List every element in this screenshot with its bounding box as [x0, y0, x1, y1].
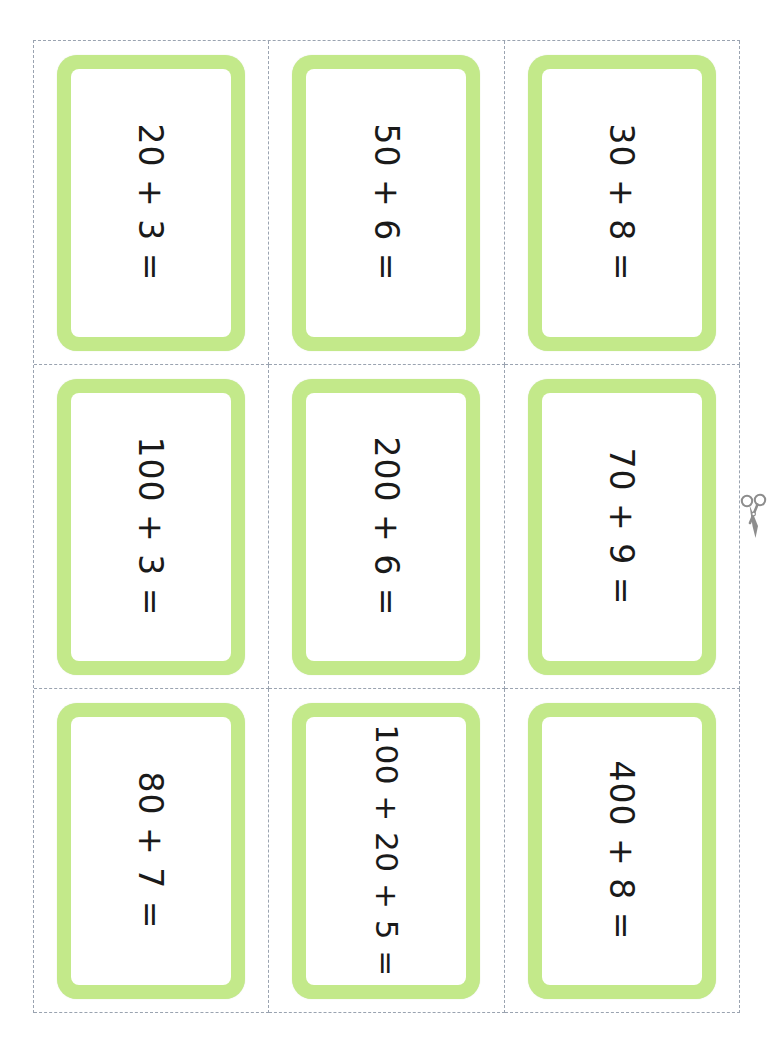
cut-line-grid: 20 + 3 = 50 + 6 = 30 + 8 = 100 + 3 =: [33, 40, 740, 1013]
flashcard-expression: 70 + 9 =: [605, 448, 638, 606]
cut-cell: 50 + 6 =: [269, 41, 504, 365]
flashcard[interactable]: 100 + 3 =: [57, 379, 245, 675]
cut-cell: 20 + 3 =: [34, 41, 269, 365]
scissors-icon: [738, 492, 768, 546]
cut-cell: 70 + 9 =: [505, 365, 740, 689]
flashcard-expression: 50 + 6 =: [370, 124, 403, 282]
flashcard[interactable]: 20 + 3 =: [57, 55, 245, 351]
flashcard-expression: 100 + 3 =: [135, 437, 168, 617]
flashcard[interactable]: 30 + 8 =: [528, 55, 716, 351]
flashcard-expression: 80 + 7 =: [135, 772, 168, 930]
flashcard-face: 200 + 6 =: [306, 393, 466, 661]
cut-cell: 100 + 3 =: [34, 365, 269, 689]
flashcard[interactable]: 100 + 20 + 5 =: [292, 703, 480, 999]
flashcard[interactable]: 400 + 8 =: [528, 703, 716, 999]
flashcard-expression: 200 + 6 =: [370, 437, 403, 617]
flashcard-face: 50 + 6 =: [306, 69, 466, 337]
flashcard-sheet: 20 + 3 = 50 + 6 = 30 + 8 = 100 + 3 =: [0, 0, 775, 1038]
flashcard-face: 80 + 7 =: [71, 717, 231, 985]
flashcard[interactable]: 80 + 7 =: [57, 703, 245, 999]
flashcard-expression: 400 + 8 =: [605, 761, 638, 941]
cut-cell: 200 + 6 =: [269, 365, 504, 689]
cut-cell: 400 + 8 =: [505, 689, 740, 1013]
cut-cell: 30 + 8 =: [505, 41, 740, 365]
cut-cell: 80 + 7 =: [34, 689, 269, 1013]
flashcard-face: 100 + 3 =: [71, 393, 231, 661]
flashcard-expression: 20 + 3 =: [135, 124, 168, 282]
flashcard[interactable]: 50 + 6 =: [292, 55, 480, 351]
flashcard-expression: 30 + 8 =: [605, 124, 638, 282]
flashcard-face: 30 + 8 =: [542, 69, 702, 337]
flashcard-face: 70 + 9 =: [542, 393, 702, 661]
cut-cell: 100 + 20 + 5 =: [269, 689, 504, 1013]
flashcard-face: 20 + 3 =: [71, 69, 231, 337]
flashcard[interactable]: 200 + 6 =: [292, 379, 480, 675]
flashcard[interactable]: 70 + 9 =: [528, 379, 716, 675]
flashcard-face: 400 + 8 =: [542, 717, 702, 985]
flashcard-face: 100 + 20 + 5 =: [306, 717, 466, 985]
flashcard-expression: 100 + 20 + 5 =: [371, 724, 402, 977]
